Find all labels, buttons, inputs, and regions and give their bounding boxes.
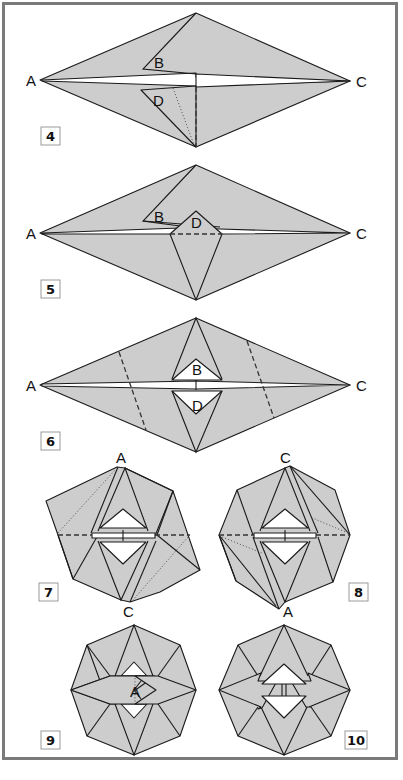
- step4-label-a: A: [26, 72, 36, 89]
- step-4: A B C D 4: [26, 13, 367, 147]
- step5-number: 5: [46, 282, 55, 297]
- step4-number: 4: [46, 129, 55, 144]
- step8-number: 8: [354, 585, 363, 600]
- step6-label-a: A: [26, 377, 36, 394]
- step4-label-b: B: [154, 54, 164, 71]
- step-5: A B C D 5: [26, 165, 367, 300]
- step6-label-b: B: [192, 361, 202, 378]
- step5-label-b: B: [154, 208, 164, 225]
- step8-label-bottom: A: [283, 603, 293, 620]
- step4-label-d: D: [153, 92, 164, 109]
- step-7: A C 8 7: [39, 449, 200, 620]
- step9-label-center: A: [130, 683, 140, 700]
- step7-number-text: 7: [44, 585, 53, 600]
- step-6: A B C D 6: [26, 318, 367, 452]
- step5-label-a: A: [26, 225, 36, 242]
- step-8: C A 8: [219, 449, 368, 620]
- step8-label-top: C: [280, 449, 291, 466]
- step10-number: 10: [347, 733, 365, 748]
- origami-diagram: A B C D 4 A B C D 5 A B C: [0, 0, 403, 780]
- step9-number: 9: [46, 733, 55, 748]
- step5-label-c: C: [356, 225, 367, 242]
- step5-label-d: D: [191, 214, 202, 231]
- step6-label-d: D: [192, 397, 203, 414]
- step7-label-top: A: [116, 449, 126, 466]
- step-9: A 9: [41, 625, 196, 755]
- step6-number: 6: [46, 434, 55, 449]
- step-10: 10: [219, 625, 367, 755]
- step6-label-c: C: [356, 377, 367, 394]
- step4-label-c: C: [356, 73, 367, 90]
- step7-label-bottom: C: [123, 603, 134, 620]
